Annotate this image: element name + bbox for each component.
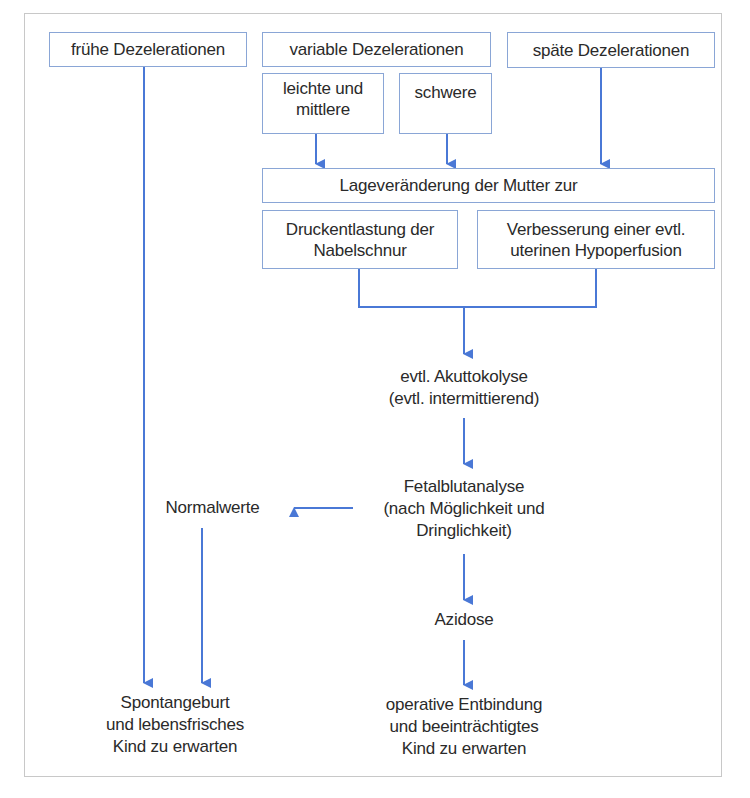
node-normalwerte: Normalwerte (150, 497, 275, 519)
node-azidose: Azidose (404, 609, 524, 631)
node-spaete-dezelerationen: späte Dezelerationen (507, 32, 715, 68)
node-variable-dezelerationen: variable Dezelerationen (262, 32, 491, 67)
node-leichte-und-mittlere: leichte und mittlere (262, 73, 384, 134)
merge-connector (359, 269, 596, 307)
node-verbesserung: Verbesserung einer evtl. uterinen Hypope… (477, 210, 715, 269)
node-fetalblutanalyse: Fetalblutanalyse (nach Möglichkeit und D… (349, 476, 579, 542)
node-spontangeburt: Spontangeburt und lebensfrisches Kind zu… (80, 692, 270, 758)
node-fruehe-dezelerationen: frühe Dezelerationen (49, 32, 247, 67)
node-operative-entbindung: operative Entbindung und beeinträchtigte… (359, 694, 569, 760)
node-akuttokolyse: evtl. Akuttokolyse (evtl. intermittieren… (354, 366, 574, 410)
node-lageveraenderung: Lageveränderung der Mutter zur (262, 168, 715, 203)
node-druckentlastung: Druckentlastung der Nabelschnur (262, 210, 458, 269)
node-schwere: schwere (399, 73, 492, 134)
